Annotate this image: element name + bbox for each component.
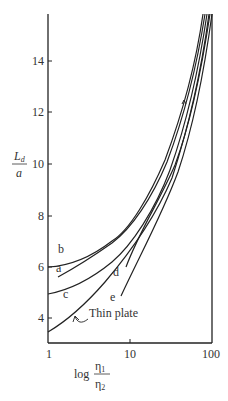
y-label-numerator: Ld	[13, 149, 26, 164]
x-label-denominator: η2	[95, 377, 105, 392]
y-tick-14: 14	[32, 54, 44, 68]
label-b: b	[58, 242, 64, 256]
y-label-denominator: a	[16, 166, 22, 180]
label-a: a	[56, 261, 62, 275]
axes	[48, 14, 212, 343]
x-tick-labels: 1 10 100	[46, 347, 220, 361]
x-label-numerator: η1	[95, 359, 105, 374]
curve-a	[58, 14, 205, 277]
label-d: d	[113, 265, 119, 279]
curve-labels: b a c d e Thin plate	[56, 242, 138, 322]
x-tick-1: 1	[46, 347, 52, 361]
y-tick-8: 8	[38, 209, 44, 223]
label-e: e	[110, 290, 115, 304]
curve-d	[126, 14, 210, 267]
chart: 4 6 8 10 12 14 1 10 100 Ld a log η1 η2	[0, 0, 228, 401]
y-axis-label: Ld a	[12, 149, 27, 180]
y-tick-labels: 4 6 8 10 12 14	[32, 54, 44, 325]
y-tick-4: 4	[38, 311, 44, 325]
curve-thin-plate	[48, 14, 209, 332]
x-tick-10: 10	[124, 347, 136, 361]
y-tick-12: 12	[32, 105, 44, 119]
x-axis-label: log η1 η2	[74, 359, 110, 392]
y-tick-6: 6	[38, 260, 44, 274]
label-thin-plate: Thin plate	[89, 306, 138, 320]
x-label-prefix: log	[74, 367, 89, 381]
curves	[48, 14, 212, 332]
thin-plate-arrow-icon	[73, 316, 88, 322]
x-tick-100: 100	[202, 347, 220, 361]
label-c: c	[63, 287, 68, 301]
y-tick-10: 10	[32, 157, 44, 171]
